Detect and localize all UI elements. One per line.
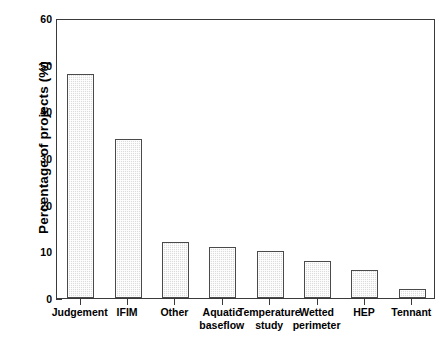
bar	[209, 247, 236, 298]
bar-chart-figure: Percentage of projects (%) 0102030405060…	[0, 0, 447, 343]
x-axis-tick	[174, 299, 175, 305]
bar	[257, 251, 284, 298]
x-axis-tick	[411, 299, 412, 305]
y-axis-tick-label: 50	[16, 60, 52, 72]
plot-area	[56, 19, 435, 299]
x-axis-tick	[317, 299, 318, 305]
x-axis-tick	[127, 299, 128, 305]
x-axis-tick	[222, 299, 223, 305]
y-axis-tick-label: 40	[16, 106, 52, 118]
bar	[399, 289, 426, 298]
x-axis-tick-label-line: perimeter	[271, 319, 363, 332]
y-axis-tick-label: 30	[16, 153, 52, 165]
x-axis-tick	[269, 299, 270, 305]
bar	[162, 242, 189, 298]
x-axis-tick-label: Tennant	[365, 306, 447, 319]
bar	[351, 270, 378, 298]
y-axis-major-tick	[56, 299, 62, 300]
bar	[67, 74, 94, 298]
y-axis-tick-label: 0	[16, 293, 52, 305]
y-axis-tick-label: 20	[16, 200, 52, 212]
y-axis-tick-label: 60	[16, 13, 52, 25]
x-axis-tick	[364, 299, 365, 305]
x-axis-tick	[80, 299, 81, 305]
x-axis-tick-label-line: Tennant	[365, 306, 447, 319]
bar	[115, 139, 142, 298]
y-axis-tick-label: 10	[16, 246, 52, 258]
bar	[304, 261, 331, 298]
